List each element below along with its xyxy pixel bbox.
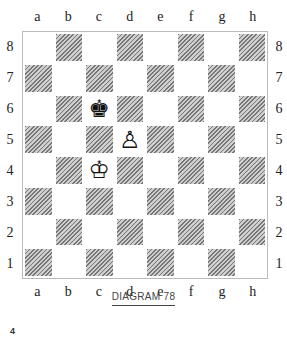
caption-text: DIAGRAM 78 bbox=[112, 291, 176, 306]
dark-square-hatching bbox=[208, 126, 235, 153]
dark-square-hatching bbox=[25, 126, 52, 153]
page-number: 4 bbox=[10, 326, 15, 336]
dark-square-hatching bbox=[178, 157, 205, 184]
file-label: a bbox=[22, 9, 53, 25]
dark-square-hatching bbox=[25, 249, 52, 276]
square-c1 bbox=[84, 247, 115, 278]
square-e8 bbox=[145, 32, 176, 63]
square-b1 bbox=[54, 247, 85, 278]
dark-square-hatching bbox=[239, 34, 266, 61]
rank-label: 8 bbox=[3, 31, 17, 62]
dark-square-hatching bbox=[56, 219, 83, 246]
square-f8 bbox=[176, 32, 207, 63]
square-b5 bbox=[54, 124, 85, 155]
square-d5: ♙ bbox=[115, 124, 146, 155]
dark-square-hatching bbox=[147, 126, 174, 153]
square-b4 bbox=[54, 155, 85, 186]
dark-square-hatching bbox=[117, 157, 144, 184]
square-a8 bbox=[23, 32, 54, 63]
rank-label: 4 bbox=[3, 155, 17, 186]
rank-label: 5 bbox=[272, 124, 286, 155]
dark-square-hatching bbox=[56, 96, 83, 123]
dark-square-hatching bbox=[86, 65, 113, 92]
square-c8 bbox=[84, 32, 115, 63]
square-g8 bbox=[206, 32, 237, 63]
square-h8 bbox=[237, 32, 268, 63]
square-b6 bbox=[54, 94, 85, 125]
rank-label: 2 bbox=[272, 217, 286, 248]
square-h2 bbox=[237, 217, 268, 248]
square-b2 bbox=[54, 217, 85, 248]
dark-square-hatching bbox=[239, 96, 266, 123]
square-c2 bbox=[84, 217, 115, 248]
rank-label: 6 bbox=[272, 93, 286, 124]
file-label: d bbox=[114, 9, 145, 25]
square-f7 bbox=[176, 63, 207, 94]
dark-square-hatching bbox=[25, 65, 52, 92]
square-a3 bbox=[23, 186, 54, 217]
square-g7 bbox=[206, 63, 237, 94]
rank-label: 5 bbox=[3, 124, 17, 155]
file-label: c bbox=[84, 9, 115, 25]
square-b3 bbox=[54, 186, 85, 217]
white-pawn-icon: ♙ bbox=[119, 128, 141, 152]
square-d2 bbox=[115, 217, 146, 248]
square-e3 bbox=[145, 186, 176, 217]
dark-square-hatching bbox=[56, 157, 83, 184]
square-f6 bbox=[176, 94, 207, 125]
dark-square-hatching bbox=[208, 188, 235, 215]
square-g4 bbox=[206, 155, 237, 186]
rank-label: 6 bbox=[3, 93, 17, 124]
square-e4 bbox=[145, 155, 176, 186]
square-e2 bbox=[145, 217, 176, 248]
file-label: h bbox=[237, 9, 268, 25]
rank-label: 7 bbox=[3, 62, 17, 93]
square-b8 bbox=[54, 32, 85, 63]
rank-label: 3 bbox=[272, 186, 286, 217]
square-f5 bbox=[176, 124, 207, 155]
rank-label: 4 bbox=[272, 155, 286, 186]
square-h7 bbox=[237, 63, 268, 94]
square-f3 bbox=[176, 186, 207, 217]
rank-labels-right: 8 7 6 5 4 3 2 1 bbox=[272, 31, 286, 279]
square-c6: ♚ bbox=[84, 94, 115, 125]
square-e7 bbox=[145, 63, 176, 94]
file-label: f bbox=[176, 9, 207, 25]
rank-label: 7 bbox=[272, 62, 286, 93]
dark-square-hatching bbox=[117, 219, 144, 246]
dark-square-hatching bbox=[86, 188, 113, 215]
square-g2 bbox=[206, 217, 237, 248]
square-c7 bbox=[84, 63, 115, 94]
rank-labels-left: 8 7 6 5 4 3 2 1 bbox=[3, 31, 17, 279]
black-king-icon: ♚ bbox=[88, 97, 110, 121]
square-h4 bbox=[237, 155, 268, 186]
dark-square-hatching bbox=[117, 96, 144, 123]
rank-label: 8 bbox=[272, 31, 286, 62]
square-g5 bbox=[206, 124, 237, 155]
square-a1 bbox=[23, 247, 54, 278]
rank-label: 2 bbox=[3, 217, 17, 248]
square-d6 bbox=[115, 94, 146, 125]
square-a5 bbox=[23, 124, 54, 155]
square-d1 bbox=[115, 247, 146, 278]
dark-square-hatching bbox=[178, 219, 205, 246]
square-d7 bbox=[115, 63, 146, 94]
dark-square-hatching bbox=[86, 249, 113, 276]
dark-square-hatching bbox=[239, 157, 266, 184]
square-b7 bbox=[54, 63, 85, 94]
rank-label: 1 bbox=[272, 248, 286, 279]
dark-square-hatching bbox=[208, 249, 235, 276]
dark-square-hatching bbox=[239, 219, 266, 246]
file-label: e bbox=[145, 9, 176, 25]
square-a2 bbox=[23, 217, 54, 248]
square-h6 bbox=[237, 94, 268, 125]
file-label: b bbox=[53, 9, 84, 25]
square-c5 bbox=[84, 124, 115, 155]
square-e6 bbox=[145, 94, 176, 125]
square-h1 bbox=[237, 247, 268, 278]
chess-board: ♚♙♔ bbox=[22, 31, 268, 279]
dark-square-hatching bbox=[147, 249, 174, 276]
square-g1 bbox=[206, 247, 237, 278]
white-king-icon: ♔ bbox=[88, 158, 110, 182]
square-f1 bbox=[176, 247, 207, 278]
